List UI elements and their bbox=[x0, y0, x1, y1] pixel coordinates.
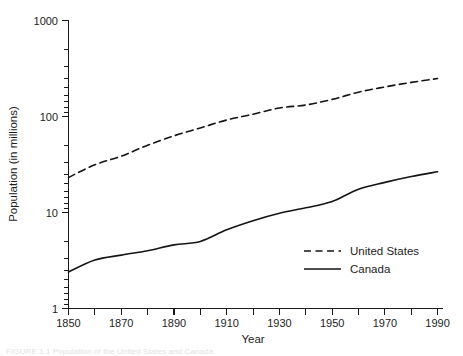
x-tick-label-1950: 1950 bbox=[320, 317, 344, 329]
x-axis-title: Year bbox=[241, 333, 264, 345]
x-axis-ticks bbox=[69, 309, 438, 316]
y-axis-minor-ticks bbox=[64, 49, 69, 304]
y-tick-label-100: 100 bbox=[40, 111, 58, 123]
y-tick-label-10: 10 bbox=[46, 207, 58, 219]
y-axis: 1000 100 10 1 Population (in millions) bbox=[7, 15, 69, 315]
legend-label-united-states: United States bbox=[350, 245, 419, 257]
x-tick-label-1890: 1890 bbox=[162, 317, 186, 329]
x-tick-label-1850: 1850 bbox=[56, 317, 80, 329]
x-tick-label-1970: 1970 bbox=[373, 317, 397, 329]
y-tick-label-1: 1 bbox=[52, 303, 58, 315]
x-tick-label-1910: 1910 bbox=[214, 317, 238, 329]
x-axis: 1850 1870 1890 1910 1930 1950 1970 1990 … bbox=[56, 309, 450, 346]
series-group bbox=[69, 79, 438, 272]
y-tick-label-1000: 1000 bbox=[34, 15, 58, 27]
x-tick-label-1930: 1930 bbox=[267, 317, 291, 329]
legend: United States Canada bbox=[304, 245, 419, 275]
x-tick-label-1990: 1990 bbox=[425, 317, 449, 329]
y-axis-title: Population (in millions) bbox=[7, 106, 19, 222]
y-axis-major-ticks bbox=[62, 21, 69, 309]
legend-label-canada: Canada bbox=[350, 263, 391, 275]
x-tick-label-1870: 1870 bbox=[109, 317, 133, 329]
series-line-united-states bbox=[69, 79, 438, 178]
